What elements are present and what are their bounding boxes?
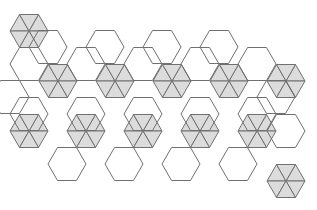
- hexagons: [0, 31, 305, 181]
- net-diagram: [0, 0, 317, 210]
- hexagon-face: [105, 148, 143, 181]
- hexagon-face: [48, 148, 86, 181]
- hexagon-face: [219, 148, 257, 181]
- hexagon-face: [162, 148, 200, 181]
